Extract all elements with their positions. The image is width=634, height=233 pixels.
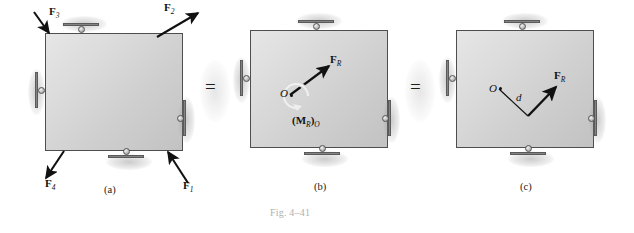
figure-caption: Fig. 4–41	[270, 207, 310, 218]
roller-circle-icon	[313, 23, 320, 30]
panel-sublabel-b: (b)	[314, 181, 326, 192]
figure-canvas: F3 F2 F4 F1 (a) =	[0, 0, 634, 233]
support-plate	[510, 152, 546, 155]
roller-circle-icon	[525, 145, 532, 152]
point-o-dot-b	[290, 94, 293, 97]
panel-sublabel-a: (a)	[104, 184, 116, 195]
roller-circle-icon	[588, 115, 595, 122]
rigid-body-plate-b	[250, 30, 388, 148]
roller-circle-icon	[519, 23, 526, 30]
equals-sign-2: =	[410, 76, 421, 98]
roller-circle-icon	[78, 26, 85, 33]
roller-circle-icon	[38, 87, 45, 94]
panel-sublabel-c: (c)	[520, 181, 532, 192]
force-label-fr-b: FR	[330, 54, 341, 68]
equals-sign-1: =	[205, 76, 216, 98]
force-label-f2: F2	[164, 2, 174, 16]
moment-label-mr-o-b: (MR)O	[292, 115, 320, 129]
force-label-f1: F1	[183, 180, 193, 194]
support-plate	[304, 152, 340, 155]
roller-circle-icon	[243, 75, 250, 82]
force-label-fr-c: FR	[554, 70, 565, 84]
roller-circle-icon	[382, 115, 389, 122]
force-arrow-f3	[34, 12, 49, 33]
point-o-dot-c	[499, 87, 502, 90]
force-label-f4: F4	[45, 178, 55, 192]
point-label-o-c: O	[489, 83, 497, 94]
panel-b: O FR (MR)O (b)	[222, 0, 422, 205]
distance-label-d-c: d	[516, 92, 522, 103]
roller-circle-icon	[319, 145, 326, 152]
roller-circle-icon	[177, 115, 184, 122]
support-plate	[108, 155, 144, 158]
roller-circle-icon	[449, 75, 456, 82]
panel-a: F3 F2 F4 F1 (a)	[8, 0, 208, 205]
point-label-o-b: O	[280, 88, 288, 99]
force-arrow-f4	[46, 151, 64, 178]
rigid-body-plate-c	[456, 30, 594, 148]
force-label-f3: F3	[49, 6, 59, 20]
rigid-body-plate-a	[45, 33, 183, 151]
panel-c: O d FR (c)	[428, 0, 628, 205]
roller-circle-icon	[123, 148, 130, 155]
